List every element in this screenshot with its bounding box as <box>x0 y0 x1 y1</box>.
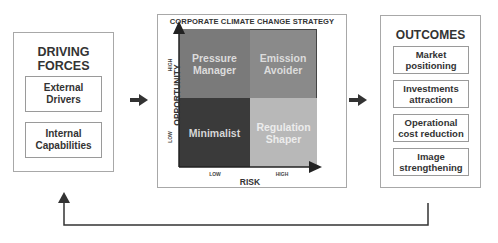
outcomes-title: OUTCOMES <box>381 28 480 42</box>
outcome-investments-attraction: Investments attraction <box>393 80 469 108</box>
arrow-up-icon <box>173 21 185 34</box>
y-axis-label: OPPORTUNITY <box>172 60 182 130</box>
y-tick-high: HIGH <box>167 55 173 75</box>
outcome-image-strengthening: Image strengthening <box>393 148 469 176</box>
arrow-right-icon <box>309 161 322 173</box>
x-axis-label: RISK <box>230 177 270 187</box>
x-tick-high: HIGH <box>270 171 294 177</box>
outcome-market-positioning: Market positioning <box>393 46 469 74</box>
y-tick-low: LOW <box>167 127 173 147</box>
outcome-operational-cost-reduction: Operational cost reduction <box>393 114 469 142</box>
x-tick-low: LOW <box>204 171 226 177</box>
